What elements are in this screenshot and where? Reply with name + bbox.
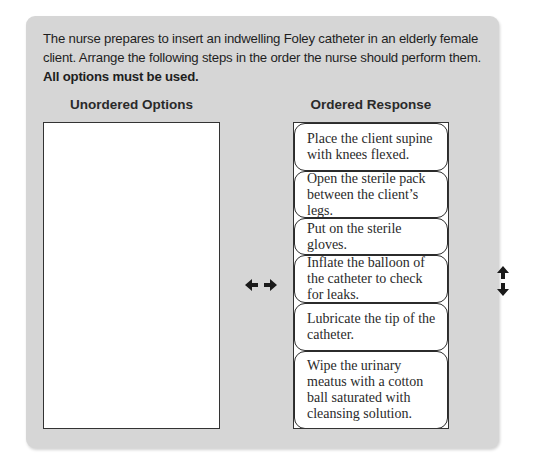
ordered-item-label: Open the sterile pack between the client… <box>307 171 441 219</box>
question-text: The nurse prepares to insert an indwelli… <box>43 31 481 65</box>
question-stem: The nurse prepares to insert an indwelli… <box>43 29 488 86</box>
ordered-item-label: Inflate the balloon of the catheter to c… <box>307 255 441 303</box>
ordered-item-label: Put on the sterile gloves. <box>307 221 441 253</box>
ordered-response-heading: Ordered Response <box>293 97 449 112</box>
ordered-item-4[interactable]: Inflate the balloon of the catheter to c… <box>294 255 448 303</box>
ordered-item-5[interactable]: Lubricate the tip of the catheter. <box>294 303 448 351</box>
ordered-item-2[interactable]: Open the sterile pack between the client… <box>294 171 448 218</box>
ordered-item-3[interactable]: Put on the sterile gloves. <box>294 218 448 255</box>
ordered-item-label: Wipe the urinary meatus with a cotton ba… <box>307 358 441 422</box>
ordered-item-label: Lubricate the tip of the catheter. <box>307 311 441 343</box>
ordered-item-1[interactable]: Place the client supine with knees flexe… <box>294 123 448 171</box>
unordered-options-heading: Unordered Options <box>43 97 220 112</box>
question-instruction: All options must be used. <box>43 67 488 86</box>
ordered-item-label: Place the client supine with knees flexe… <box>307 131 441 163</box>
left-right-arrow-icon[interactable] <box>245 278 277 292</box>
ordered-item-6[interactable]: Wipe the urinary meatus with a cotton ba… <box>294 351 448 429</box>
unordered-options-list[interactable] <box>43 122 220 429</box>
ordered-response-list[interactable]: Place the client supine with knees flexe… <box>293 122 449 429</box>
up-down-arrow-icon[interactable] <box>496 266 510 296</box>
